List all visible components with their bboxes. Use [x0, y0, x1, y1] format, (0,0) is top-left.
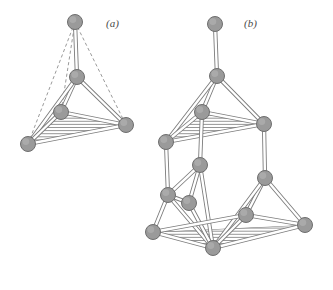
atom-specular-highlight [258, 118, 265, 125]
panel-label-b: (b) [244, 17, 257, 30]
atom-node: a:base-right [119, 118, 134, 133]
atom-specular-highlight [299, 219, 306, 226]
atom-node: b:top-apex [208, 17, 223, 32]
atom-specular-highlight [120, 119, 127, 126]
atom-node: b:upper-right [257, 117, 272, 132]
atom-specular-highlight [207, 242, 214, 249]
atom-specular-highlight [259, 172, 266, 179]
atom-node: a:center [70, 70, 85, 85]
panel-label-a: (a) [106, 17, 119, 30]
atom-specular-highlight [162, 189, 169, 196]
cluster-diagram: a:apexa:centera:base-backa:base-righta:b… [0, 0, 333, 290]
atom-node: b:mid-center [193, 158, 208, 173]
atom-node: a:base-back [54, 105, 69, 120]
atom-specular-highlight [209, 18, 216, 25]
atom-specular-highlight [147, 226, 154, 233]
atom-specular-highlight [55, 106, 62, 113]
atom-node: b:mid-front [182, 196, 197, 211]
bond [75, 22, 77, 77]
atom-specular-highlight [71, 71, 78, 78]
atom-specular-highlight [211, 70, 218, 77]
atom-node: b:low-front [206, 241, 221, 256]
atom-specular-highlight [194, 159, 201, 166]
atom-node: b:mid-left [161, 188, 176, 203]
atom-node: b:upper-back [195, 105, 210, 120]
atom-node: b:upper-center [210, 69, 225, 84]
atom-specular-highlight [160, 136, 167, 143]
atom-specular-highlight [22, 138, 29, 145]
atom-specular-highlight [240, 209, 247, 216]
atom-node: b:low-mid [239, 208, 254, 223]
atom-node: b:low-right [298, 218, 313, 233]
atom-specular-highlight [69, 16, 76, 23]
atom-node: b:upper-left [159, 135, 174, 150]
atom-node: a:apex [68, 15, 83, 30]
bond-core [264, 124, 265, 178]
figure-container: a:apexa:centera:base-backa:base-righta:b… [0, 0, 333, 290]
atom-node: b:mid-right [258, 171, 273, 186]
atom-node: a:base-left [21, 137, 36, 152]
bond [264, 124, 265, 178]
atom-node: b:low-left [146, 225, 161, 240]
atom-specular-highlight [196, 106, 203, 113]
atom-specular-highlight [183, 197, 190, 204]
